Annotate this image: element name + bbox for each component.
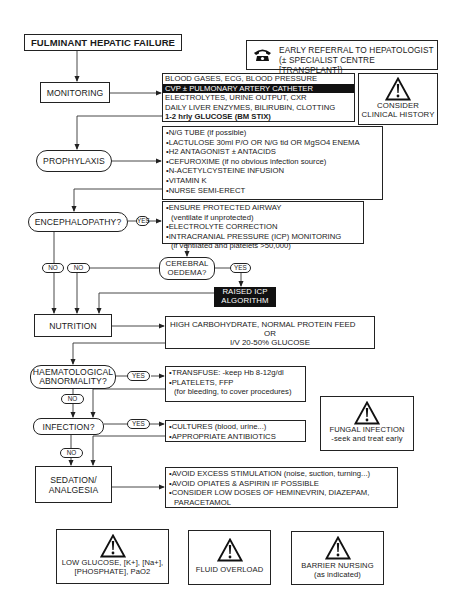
- encephalopathy-item: (if ventilated and platelets >50,000): [166, 241, 360, 251]
- sedation-item: AVOID OPIATES & ASPIRIN IF POSSIBLE: [169, 479, 394, 489]
- transfuse-details: TRANSFUSE: -keep Hb 8-12g/dl PLATELETS, …: [165, 366, 306, 402]
- no-label: NO: [67, 449, 77, 456]
- prophylaxis-item: LACTULOSE 30ml P/O OR N/G tid OR MgSO4 E…: [166, 138, 379, 148]
- encephalopathy-item: INTRACRANIAL PRESSURE (ICP) MONITORING: [166, 232, 360, 242]
- prophylaxis-item: N-ACETYLCYSTEINE INFUSION: [166, 166, 379, 176]
- referral-line2: (± SPECIALIST CENTRE [TRANSPLANT]): [279, 55, 437, 75]
- infection-details: CULTURES (blood, urine...) APPROPRIATE A…: [165, 420, 306, 442]
- cerebral-yes-badge: YES: [230, 263, 251, 273]
- warning-fluid-overload: FLUID OVERLOAD: [188, 530, 271, 585]
- transfuse-item: PLATELETS, FFP: [169, 378, 302, 388]
- infection-item: CULTURES (blood, urine...): [169, 422, 302, 432]
- referral-line1: EARLY REFERRAL TO HEPATOLOGIST: [279, 45, 437, 55]
- encephalopathy-details: ENSURE PROTECTED AIRWAY (ventilate if un…: [162, 201, 364, 244]
- monitoring-item-highlighted: CVP ± PULMONARY ARTERY CATHETER: [163, 84, 354, 94]
- clinical-history-line1: CONSIDER: [359, 101, 437, 110]
- prophylaxis-label: PROPHYLAXIS: [43, 156, 105, 166]
- encephalopathy-decision: ENCEPHALOPATHY?: [28, 212, 128, 232]
- yes-label: YES: [234, 264, 247, 271]
- monitoring-item: DAILY LIVER ENZYMES, BILIRUBIN, CLOTTING: [163, 103, 354, 113]
- encephalopathy-item: ENSURE PROTECTED AIRWAY: [166, 203, 360, 213]
- warning-icon: [354, 401, 380, 425]
- sedation-line1: SEDATION/: [50, 475, 97, 485]
- warning-icon: [325, 536, 351, 560]
- encephalopathy-item: (ventilate if unprotected): [166, 213, 360, 223]
- title-box: FULMINANT HEPATIC FAILURE: [24, 34, 182, 51]
- no-label: NO: [74, 264, 84, 271]
- cerebral-line2: OEDEMA?: [168, 269, 207, 278]
- yes-label: YES: [137, 217, 150, 224]
- nutrition-line3: I/V 20-50% GLUCOSE: [166, 338, 374, 347]
- sedation-item: PARACETAMOL: [169, 498, 394, 508]
- warning-low-glucose: LOW GLUCOSE, [K+], [Na+], [PHOSPHATE], P…: [56, 529, 169, 584]
- haematological-yes-badge: YES: [127, 371, 150, 381]
- monitoring-item: BLOOD GASES, ECG, BLOOD PRESSURE: [163, 74, 354, 84]
- raised-icp-algorithm: RAISED ICP ALGORITHM: [214, 287, 276, 307]
- no-label: NO: [48, 264, 58, 271]
- haematological-line2: ABNORMALITY?: [39, 377, 107, 386]
- warning-line1: BARRIER NURSING: [292, 561, 383, 570]
- infection-no-badge: NO: [60, 448, 83, 458]
- telephone-icon: [253, 48, 272, 62]
- nutrition-line1: HIGH CARBOHYDRATE, NORMAL PROTEIN FEED: [170, 320, 355, 329]
- fungal-infection-warning: FUNGAL INFECTION -seek and treat early: [320, 396, 414, 451]
- nutrition-node: NUTRITION: [34, 314, 112, 337]
- cerebral-oedema-decision: CEREBRAL OEDEMA?: [159, 257, 215, 280]
- warning-icon: [385, 77, 411, 101]
- warning-barrier-nursing: BARRIER NURSING (as indicated): [291, 531, 384, 585]
- transfuse-item: (for bleeding, to cover procedures): [169, 387, 302, 397]
- prophylaxis-details: N/G TUBE (if possible) LACTULOSE 30ml P/…: [162, 126, 383, 200]
- referral-box: EARLY REFERRAL TO HEPATOLOGIST (± SPECIA…: [246, 40, 438, 70]
- sedation-line2: ANALGESIA: [49, 485, 99, 495]
- infection-decision: INFECTION?: [33, 418, 104, 435]
- monitoring-item: 1-2 hrly GLUCOSE (BM STIX): [163, 112, 354, 122]
- nutrition-label: NUTRITION: [49, 321, 97, 331]
- monitoring-item: ELECTROLYTES, URINE OUTPUT, CXR: [163, 93, 354, 103]
- encephalopathy-item: ELECTROLYTE CORRECTION: [166, 222, 360, 232]
- infection-yes-badge: YES: [127, 419, 150, 429]
- fungal-line1: FUNGAL INFECTION: [321, 425, 413, 434]
- raised-icp-line2: ALGORITHM: [221, 297, 268, 306]
- prophylaxis-item: N/G TUBE (if possible): [166, 128, 379, 138]
- transfuse-item: TRANSFUSE: -keep Hb 8-12g/dl: [169, 368, 302, 378]
- prophylaxis-item: NURSE SEMI-ERECT: [166, 186, 379, 196]
- page-title: FULMINANT HEPATIC FAILURE: [31, 38, 175, 48]
- prophylaxis-item: H2 ANTAGONIST ± ANTACIDS: [166, 147, 379, 157]
- prophylaxis-item: VITAMIN K: [166, 176, 379, 186]
- sedation-item: CONSIDER LOW DOSES OF HEMINEVRIN, DIAZEP…: [169, 488, 394, 498]
- monitoring-details: BLOOD GASES, ECG, BLOOD PRESSURE CVP ± P…: [162, 73, 355, 122]
- prophylaxis-node: PROPHYLAXIS: [36, 150, 112, 172]
- monitoring-node: MONITORING: [40, 82, 110, 103]
- infection-label: INFECTION?: [42, 422, 94, 432]
- sedation-node: SEDATION/ ANALGESIA: [35, 466, 112, 503]
- encephalopathy-no-badge: NO: [42, 263, 64, 273]
- cerebral-no-badge: NO: [67, 263, 90, 273]
- warning-icon: [217, 538, 243, 562]
- clinical-history-line2: CLINICAL HISTORY: [359, 110, 437, 119]
- warning-line1: FLUID OVERLOAD: [189, 565, 270, 574]
- clinical-history-warning: CONSIDER CLINICAL HISTORY: [358, 73, 438, 125]
- yes-label: YES: [132, 420, 145, 427]
- haematological-decision: HAEMATOLOGICAL ABNORMALITY?: [30, 365, 116, 389]
- warning-icon: [100, 534, 126, 558]
- fungal-line2: -seek and treat early: [321, 434, 413, 443]
- no-label: NO: [68, 395, 78, 402]
- encephalopathy-label: ENCEPHALOPATHY?: [35, 217, 122, 227]
- encephalopathy-yes-badge: YES: [136, 216, 149, 226]
- sedation-details: AVOID EXCESS STIMULATION (noise, suction…: [165, 467, 398, 508]
- haematological-no-badge: NO: [61, 394, 84, 404]
- warning-line2: [PHOSPHATE], PaO2: [57, 568, 168, 577]
- monitoring-label: MONITORING: [47, 88, 104, 98]
- sedation-item: AVOID EXCESS STIMULATION (noise, suction…: [169, 469, 394, 479]
- infection-item: APPROPRIATE ANTIBIOTICS: [169, 432, 302, 442]
- prophylaxis-item: CEFUROXIME (if no obvious infection sour…: [166, 157, 379, 167]
- nutrition-details: HIGH CARBOHYDRATE, NORMAL PROTEIN FEED O…: [165, 316, 375, 349]
- warning-line2: (as indicated): [292, 570, 383, 579]
- yes-label: YES: [132, 372, 145, 379]
- nutrition-line2: OR: [166, 329, 374, 338]
